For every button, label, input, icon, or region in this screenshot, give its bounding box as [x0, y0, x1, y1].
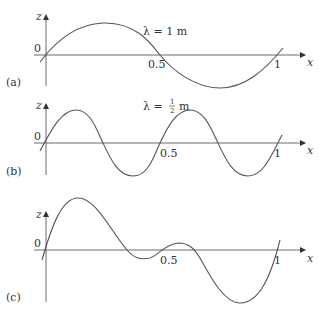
tick-label-0-5: 0.5 — [148, 58, 166, 71]
tick-label-1: 1 — [274, 147, 281, 160]
z-axis-label: z — [35, 208, 42, 221]
svg-text:λ =: λ = — [143, 100, 163, 113]
x-axis-label: x — [307, 252, 314, 265]
tick-label-0-5: 0.5 — [160, 254, 178, 267]
wavelength-unit: m — [179, 100, 190, 113]
tick-label-0-5: 0.5 — [160, 147, 178, 160]
wavelength-label: λ = 1 2 m — [143, 98, 190, 115]
panel-label: (c) — [6, 291, 21, 304]
panel-label: (a) — [6, 76, 21, 89]
fraction-numerator: 1 — [170, 98, 174, 106]
tick-label-1: 1 — [274, 254, 281, 267]
panel-label: (b) — [6, 165, 22, 178]
x-axis-label: x — [307, 56, 314, 69]
origin-label: 0 — [34, 130, 41, 143]
panel-c: z x 0 0.5 1 (c) — [6, 198, 314, 304]
wave-diagram: z x 0 0.5 1 (a) λ = 1 m z x 0 0.5 1 (b) … — [0, 0, 319, 322]
origin-label: 0 — [34, 237, 41, 250]
x-axis-label: x — [307, 144, 314, 157]
origin-label: 0 — [34, 42, 41, 55]
tick-label-1: 1 — [274, 58, 281, 71]
z-axis-label: z — [35, 10, 42, 23]
panel-a: z x 0 0.5 1 (a) λ = 1 m — [6, 10, 314, 89]
panel-b: z x 0 0.5 1 (b) λ = 1 2 m — [6, 98, 314, 178]
wavelength-label: λ = 1 m — [143, 25, 188, 38]
z-axis-label: z — [35, 99, 42, 112]
fraction-denominator: 2 — [170, 107, 174, 115]
